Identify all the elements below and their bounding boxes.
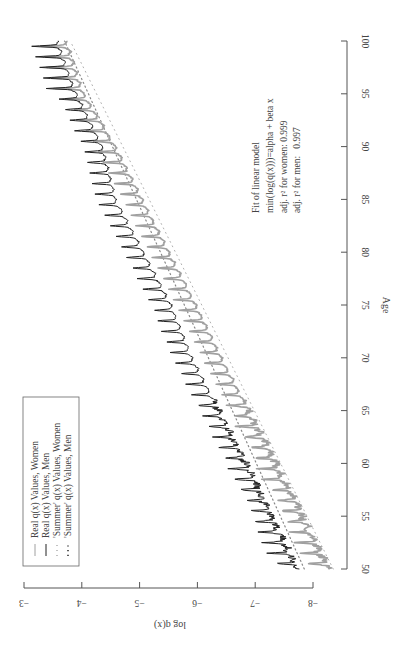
- chart: 50556065707580859095100 Age −3−4−5−6−7−8…: [0, 0, 410, 647]
- age-tick-label: 50: [360, 564, 370, 574]
- legend-label: 'Summer' q(x) Values, Women: [52, 423, 63, 538]
- annotation-line: adj. r² for women: 0.999: [279, 120, 289, 213]
- fit-annotation: Fit of linear model min(log(q(x)))=alpha…: [251, 98, 302, 213]
- age-tick-label: 75: [360, 300, 370, 310]
- annotation-line: min(log(q(x)))=alpha + beta x: [265, 98, 276, 213]
- age-axis: 50556065707580859095100: [341, 34, 370, 574]
- legend: Real q(x) Values, Women Real q(x) Values…: [23, 397, 79, 566]
- age-tick-label: 65: [360, 406, 370, 416]
- logq-tick-label: −3: [19, 598, 29, 608]
- legend-item: Real q(x) Values, Women: [30, 441, 41, 556]
- legend-label: 'Summer' q(x) Values, Men: [63, 434, 74, 538]
- age-axis-title: Age: [381, 297, 392, 314]
- logq-tick-label: −7: [250, 598, 260, 608]
- legend-label: Real q(x) Values, Women: [30, 441, 41, 538]
- logq-axis-title: log q(x): [154, 619, 186, 631]
- age-tick-label: 70: [360, 353, 370, 363]
- legend-label: Real q(x) Values, Men: [41, 452, 52, 538]
- series-line-0: [41, 41, 332, 569]
- age-tick-label: 85: [360, 195, 370, 205]
- age-tick-label: 100: [360, 34, 370, 49]
- logq-tick-label: −6: [192, 598, 202, 608]
- logq-axis: −3−4−5−6−7−8: [19, 582, 318, 608]
- age-tick-label: 60: [360, 459, 370, 469]
- annotation-line: adj. r² for men: 0.997: [292, 127, 302, 213]
- logq-tick-label: −5: [134, 598, 144, 608]
- logq-tick-label: −8: [308, 598, 318, 608]
- logq-tick-label: −4: [76, 598, 86, 608]
- age-tick-label: 55: [360, 511, 370, 521]
- legend-item: 'Summer' q(x) Values, Men: [63, 434, 74, 556]
- age-tick-label: 95: [360, 89, 370, 99]
- annotation-line: Fit of linear model: [251, 142, 261, 213]
- age-tick-label: 80: [360, 247, 370, 257]
- age-tick-label: 90: [360, 142, 370, 152]
- legend-item: 'Summer' q(x) Values, Women: [52, 423, 63, 556]
- series-fit-line-2: [70, 41, 333, 569]
